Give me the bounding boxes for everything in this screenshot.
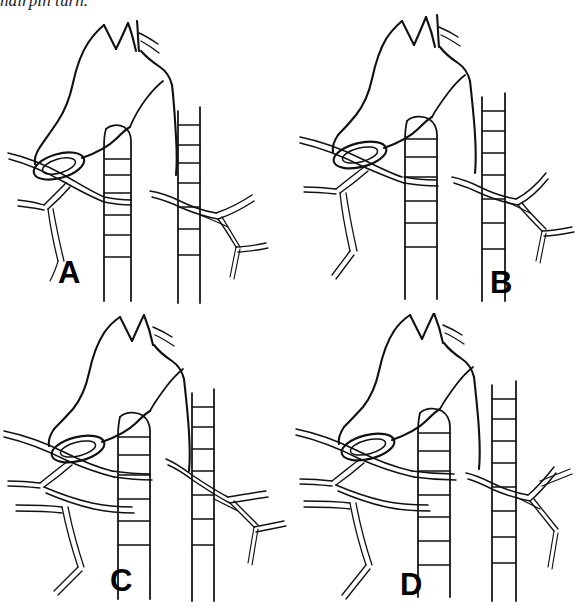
segmented-vessel-left [405,117,437,299]
panel-c: C [0,313,294,615]
panel-b-label: B [490,265,512,300]
panel-d-label: D [400,567,422,602]
panel-d: D [294,313,588,615]
figure-grid: A [0,11,588,616]
nerve-branches-right [150,191,268,279]
segmented-vessel-left [104,125,131,301]
caption-text: hairpin turn. [0,0,88,10]
caption-strip: hairpin turn. [0,0,588,11]
nerve-branches-right [166,459,286,565]
nerve-branches-right [452,173,574,263]
segmented-vessel-left [418,409,450,597]
segmented-vessel-right [192,389,214,601]
aortic-arch-outline [49,315,190,471]
nerve-branches-right [466,467,572,569]
panel-a-label: A [58,255,80,290]
nerve-branches-left [296,429,456,599]
panel-a: A [0,11,294,313]
panel-b: B [294,11,588,313]
aortic-arch-outline [331,15,476,173]
aortic-arch-outline [339,313,480,469]
panel-c-label: C [110,563,132,598]
nerve-branches-left [300,137,438,279]
